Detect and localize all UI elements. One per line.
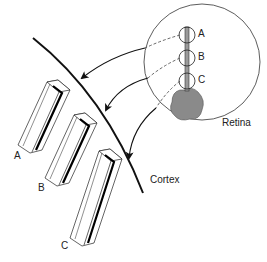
column-label-b: B	[38, 183, 45, 193]
arrow-c	[129, 108, 156, 158]
diagram-svg	[0, 0, 267, 262]
retina-strip	[185, 27, 189, 91]
dashed-line-a	[145, 35, 180, 48]
retina-label-a: A	[198, 29, 205, 39]
dashed-line-b	[148, 58, 180, 78]
retina-label-b: B	[198, 52, 205, 62]
arrow-b	[106, 78, 148, 110]
cortex-label: Cortex	[150, 175, 179, 185]
column-label-a: A	[14, 151, 21, 161]
column-label-c: C	[61, 241, 68, 251]
retina-label-c: C	[198, 75, 205, 85]
retina-blob	[171, 88, 204, 120]
diagram-canvas: A B C Retina Cortex A B C	[0, 0, 267, 262]
retina-label: Retina	[222, 118, 251, 128]
arrow-a	[82, 48, 145, 78]
